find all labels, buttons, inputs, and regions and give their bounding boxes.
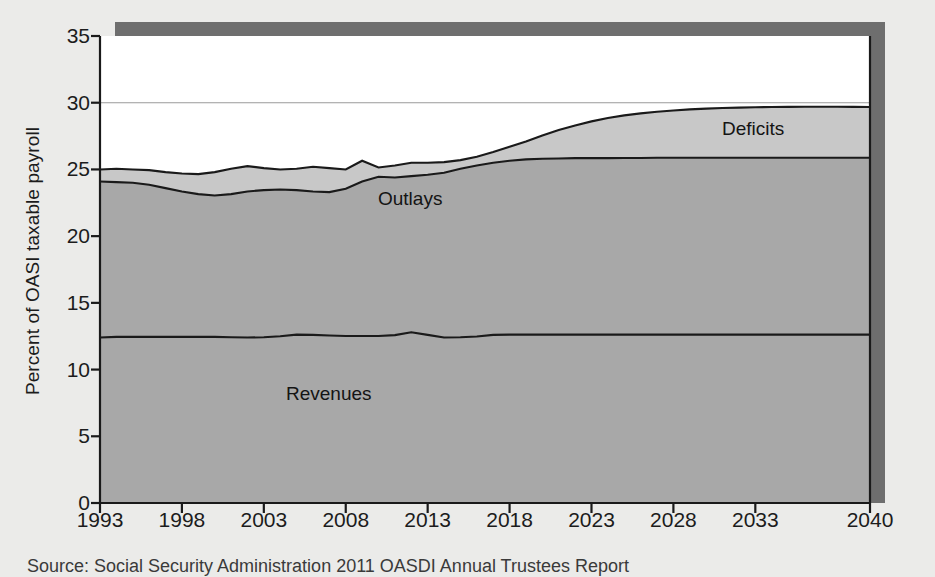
- y-tick-label: 5: [30, 424, 90, 448]
- plot-canvas: [0, 0, 935, 577]
- series-label-deficits: Deficits: [722, 118, 784, 140]
- x-tick-label: 2028: [650, 508, 697, 532]
- x-tick-label: 2003: [240, 508, 287, 532]
- x-tick-label: 2008: [322, 508, 369, 532]
- y-tick-label: 30: [30, 91, 90, 115]
- area-revenues: [100, 332, 870, 503]
- y-axis-tick-marks: [91, 36, 100, 503]
- y-tick-label: 20: [30, 224, 90, 248]
- y-tick-label: 35: [30, 24, 90, 48]
- x-tick-label: 1993: [77, 508, 124, 532]
- x-tick-label: 2040: [847, 508, 894, 532]
- x-tick-label: 2033: [732, 508, 779, 532]
- source-note: Source: Social Security Administration 2…: [27, 556, 629, 577]
- x-tick-label: 1998: [159, 508, 206, 532]
- chart-figure: Percent of OASI taxable payroll 35 30 25…: [0, 0, 935, 577]
- x-tick-label: 2023: [568, 508, 615, 532]
- x-tick-label: 2018: [486, 508, 533, 532]
- y-tick-label: 25: [30, 157, 90, 181]
- y-tick-label: 10: [30, 358, 90, 382]
- series-label-outlays: Outlays: [378, 188, 442, 210]
- y-tick-label: 15: [30, 291, 90, 315]
- x-tick-label: 2013: [404, 508, 451, 532]
- series-label-revenues: Revenues: [286, 383, 372, 405]
- y-axis-tick-labels: 35 30 25 20 15 10 5 0: [28, 0, 90, 577]
